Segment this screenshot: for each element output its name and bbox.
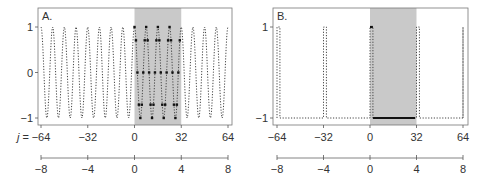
y-tick-label: 0 [27,67,33,79]
sample-point [177,71,179,73]
sample-point [168,26,170,28]
x-axis-prefix: j = [15,131,29,143]
sample-point [149,103,151,105]
secondary-x-tick-label: 8 [460,163,466,175]
secondary-x-tick-label: −4 [81,163,94,175]
sample-point [179,39,181,41]
x-tick-label: 32 [410,131,422,143]
sample-point [151,117,153,119]
sample-point [144,39,146,41]
sample-point [138,103,140,105]
x-tick-label: 32 [175,131,187,143]
secondary-x-tick-label: −4 [317,163,330,175]
sample-point [155,39,157,41]
y-tick-label: −1 [255,112,268,124]
secondary-x-tick-label: 8 [225,163,231,175]
x-tick-label: −32 [78,131,97,143]
sample-point [173,103,175,105]
shaded-region [370,8,417,125]
sample-point [163,117,165,119]
sample-point [145,26,147,28]
sample-point [170,39,172,41]
sample-point [165,71,167,73]
panel-b: B.1−1−64−3203264−8−4048 [255,8,469,175]
panel-a: A.10−1−64−3203264j =−8−4048 [15,8,234,175]
sample-point [154,71,156,73]
y-tick-label: 1 [27,21,33,33]
x-tick-label: 64 [222,131,234,143]
sample-point [139,117,141,119]
figure: A.10−1−64−3203264j =−8−4048B.1−1−64−3203… [0,0,483,187]
y-tick-label: 1 [262,21,268,33]
panel-label: B. [277,10,287,22]
sample-point [135,39,137,41]
x-tick-label: 0 [131,131,137,143]
x-tick-label: −64 [32,131,51,143]
sample-point [164,103,166,105]
sample-point [161,103,163,105]
x-tick-label: 64 [457,131,469,143]
sample-point [171,71,173,73]
x-tick-label: −64 [268,131,287,143]
secondary-x-tick-label: 4 [413,163,419,175]
sample-point [152,103,154,105]
sample-point [157,26,159,28]
secondary-x-tick-label: 4 [178,163,184,175]
sample-point [141,103,143,105]
secondary-x-tick-label: 0 [131,163,137,175]
x-tick-label: 0 [367,131,373,143]
sample-point [148,71,150,73]
x-tick-label: −32 [314,131,333,143]
secondary-x-tick-label: −8 [35,163,48,175]
sample-point [142,71,144,73]
sample-point [158,39,160,41]
y-tick-label: −1 [20,112,33,124]
secondary-x-tick-label: 0 [367,163,373,175]
sample-point [174,117,176,119]
sample-point [136,71,138,73]
panel-label: A. [42,10,52,22]
secondary-x-tick-label: −8 [271,163,284,175]
sample-point [160,71,162,73]
sample-point [146,39,148,41]
sample-point [167,39,169,41]
sample-point [176,103,178,105]
sample-point [133,26,135,28]
